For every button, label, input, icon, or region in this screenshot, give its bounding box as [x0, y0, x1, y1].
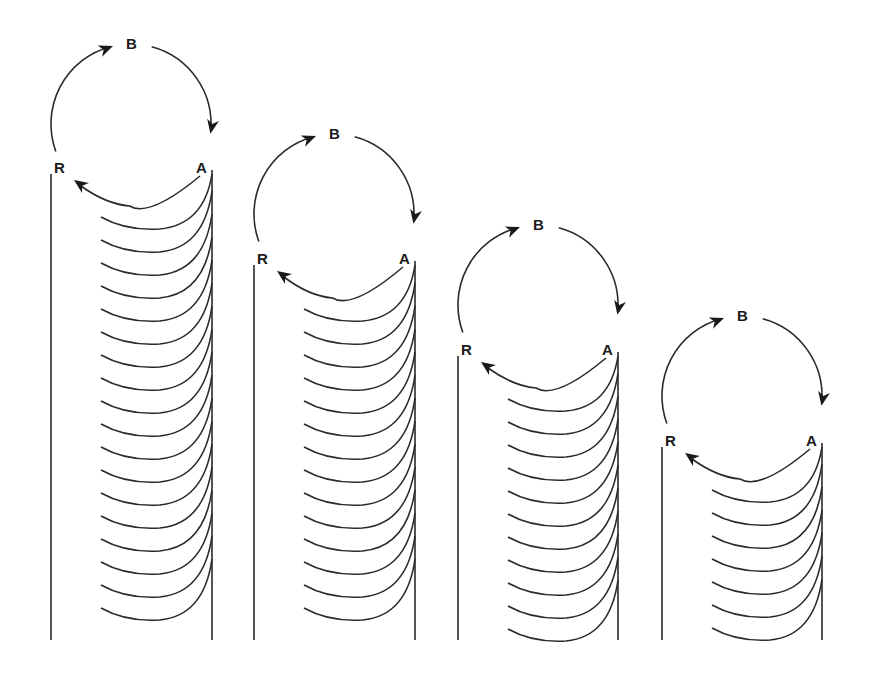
stacked-arc: [304, 265, 415, 321]
column-2: BAR: [254, 125, 422, 640]
return-arc-a-to-r: [284, 267, 403, 301]
stacked-arc: [101, 306, 212, 367]
stacked-arc: [304, 513, 415, 574]
cycle-diagram: BARBARBARBAR: [0, 0, 874, 680]
column-4: BAR: [662, 307, 830, 640]
stacked-arc: [508, 396, 618, 457]
stacked-arc: [304, 352, 415, 413]
cycle-arc-r-to-b: [254, 137, 313, 242]
stacked-arc: [304, 536, 415, 597]
label-b: B: [329, 125, 340, 142]
stacked-arc: [712, 579, 822, 640]
stacked-arc: [712, 533, 822, 594]
return-arc-a-to-r: [488, 358, 606, 391]
stacked-arc: [508, 511, 618, 572]
stacked-arc: [101, 214, 212, 275]
stacked-arc: [712, 487, 822, 548]
stacked-arc: [304, 375, 415, 436]
stacked-arc: [101, 283, 212, 344]
return-arc-a-to-r: [692, 449, 810, 482]
stacked-arc: [101, 329, 212, 390]
stacked-arc: [304, 467, 415, 528]
label-b: B: [737, 307, 748, 324]
label-r: R: [461, 341, 472, 358]
stacked-arc: [101, 559, 212, 620]
stacked-arc: [101, 513, 212, 574]
stacked-arc: [508, 465, 618, 526]
label-b: B: [126, 35, 137, 52]
label-r: R: [665, 432, 676, 449]
arrowhead-icon: [301, 130, 318, 146]
arrowhead-icon: [98, 40, 115, 56]
stacked-arc: [712, 556, 822, 617]
cycle-arc-b-to-a: [559, 228, 618, 312]
label-a: A: [806, 432, 817, 449]
column-1: BAR: [51, 35, 219, 640]
stacked-arc: [508, 488, 618, 549]
cycle-arc-r-to-b: [458, 228, 517, 333]
stacked-arc: [304, 283, 415, 344]
cycle-arc-r-to-b: [662, 319, 721, 424]
stacked-arc: [101, 398, 212, 459]
stacked-arc: [304, 329, 415, 390]
stacked-arc: [508, 534, 618, 595]
stacked-arc: [508, 373, 618, 434]
return-arc-a-to-r: [81, 176, 200, 209]
stacked-arc: [101, 191, 212, 252]
stacked-arc: [304, 398, 415, 459]
cycle-arc-r-to-b: [51, 47, 110, 152]
column-3: BAR: [458, 216, 626, 641]
stacked-arc: [101, 174, 212, 229]
stacked-arc: [508, 419, 618, 480]
label-a: A: [602, 341, 613, 358]
stacked-arc: [304, 306, 415, 367]
stacked-arc: [101, 237, 212, 298]
arrowhead-icon: [505, 221, 522, 237]
stacked-arc: [101, 421, 212, 482]
stacked-arc: [101, 260, 212, 321]
cycle-arc-b-to-a: [355, 137, 414, 221]
stacked-arc: [712, 510, 822, 571]
stacked-arc: [101, 467, 212, 528]
cycle-arc-b-to-a: [152, 47, 211, 131]
arrowhead-icon: [709, 312, 726, 328]
stacked-arc: [304, 490, 415, 551]
stacked-arc: [101, 536, 212, 597]
stacked-arc: [101, 444, 212, 505]
stacked-arc: [508, 557, 618, 618]
stacked-arc: [712, 464, 822, 525]
label-r: R: [257, 250, 268, 267]
stacked-arc: [712, 447, 822, 502]
stacked-arc: [304, 421, 415, 482]
cycle-arc-b-to-a: [763, 319, 822, 403]
label-r: R: [54, 159, 65, 176]
stacked-arc: [101, 490, 212, 551]
stacked-arc: [304, 559, 415, 620]
label-b: B: [533, 216, 544, 233]
label-a: A: [399, 250, 410, 267]
stacked-arc: [304, 444, 415, 505]
stacked-arc: [101, 352, 212, 413]
stacked-arc: [508, 580, 618, 641]
stacked-arc: [508, 442, 618, 503]
stacked-arc: [508, 356, 618, 411]
label-a: A: [196, 159, 207, 176]
stacked-arc: [101, 375, 212, 436]
